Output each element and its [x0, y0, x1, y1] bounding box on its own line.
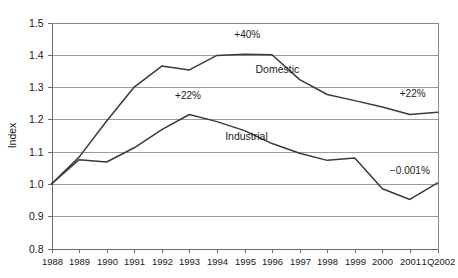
x-tick-label: 1994: [207, 256, 228, 267]
line-chart: 1.51.41.31.21.11.00.90.8 198819891990199…: [0, 0, 458, 278]
y-tick-label: 1.0: [29, 178, 44, 190]
y-tick-label: 1.1: [29, 146, 44, 158]
x-tick-label: 1Q2002: [422, 256, 456, 267]
chart-container: 1.51.41.31.21.11.00.90.8 198819891990199…: [0, 0, 458, 278]
y-tick-label: 1.3: [29, 81, 44, 93]
x-tick-label: 2000: [372, 256, 393, 267]
x-tick-label: 1988: [42, 256, 63, 267]
annotation-industrial-1: −0.001%: [390, 165, 430, 176]
annotation-domestic-1: +22%: [400, 88, 426, 99]
y-axis-title: Index: [6, 122, 18, 148]
x-tick-label: 1996: [262, 256, 283, 267]
x-tick-label: 1992: [152, 256, 173, 267]
x-tick-label: 1991: [124, 256, 145, 267]
x-tick-label: 1995: [235, 256, 256, 267]
series-label-domestic: Domestic: [256, 63, 300, 75]
x-tick-label: 1989: [69, 256, 90, 267]
x-tick-label: 1993: [179, 256, 200, 267]
x-tick-label: 2001: [400, 256, 421, 267]
annotation-industrial-0: +22%: [175, 90, 201, 101]
y-tick-label: 0.8: [29, 243, 44, 255]
x-tick-label: 1990: [97, 256, 118, 267]
x-tick-label: 1999: [345, 256, 366, 267]
y-tick-label: 0.9: [29, 210, 44, 222]
series-label-industrial: Industrial: [225, 130, 268, 142]
y-tick-label: 1.2: [29, 113, 44, 125]
x-tick-label: 1998: [317, 256, 338, 267]
y-tick-label: 1.5: [29, 17, 44, 29]
x-tick-label: 1997: [290, 256, 311, 267]
annotation-domestic-0: +40%: [234, 29, 260, 40]
y-tick-label: 1.4: [29, 49, 44, 61]
